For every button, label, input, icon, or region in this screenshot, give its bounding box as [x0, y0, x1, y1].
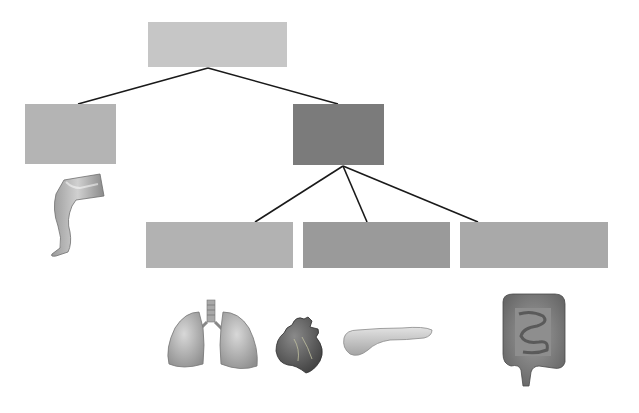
leg-icon [46, 170, 108, 262]
edge-right-to-a [255, 166, 343, 222]
intestines-icon [497, 292, 569, 388]
level2-b-box [303, 222, 450, 268]
level1-right-box [293, 104, 384, 165]
root-box [148, 22, 287, 67]
pancreas-icon [340, 324, 434, 360]
edge-root-to-right [208, 68, 338, 104]
level2-c-box [460, 222, 608, 268]
level1-left-box [25, 104, 116, 164]
lungs-icon [163, 298, 263, 370]
level2-a-box [146, 222, 293, 268]
heart-icon [272, 315, 330, 375]
edge-root-to-left [78, 68, 208, 104]
